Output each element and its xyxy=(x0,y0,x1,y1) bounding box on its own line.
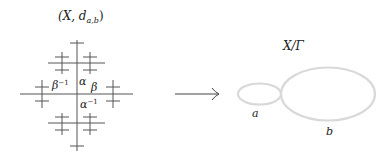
left-title: (X, da,b) xyxy=(58,9,104,25)
diagram-canvas: (X, da,b) xyxy=(0,0,390,157)
right-title: X/Γ xyxy=(282,39,305,53)
loop-a-label: a xyxy=(252,107,259,120)
diagram-svg: (X, da,b) xyxy=(0,0,390,157)
long-right-arrow-icon xyxy=(175,88,219,100)
loop-b xyxy=(281,68,375,121)
loop-a xyxy=(238,84,281,105)
label-alpha: α xyxy=(79,75,87,88)
label-beta: β xyxy=(90,81,97,94)
loop-b-label: b xyxy=(326,125,333,138)
label-beta-inverse: β−1 xyxy=(51,79,69,92)
label-alpha-inverse: α−1 xyxy=(80,98,98,111)
cayley-tree xyxy=(20,40,133,151)
